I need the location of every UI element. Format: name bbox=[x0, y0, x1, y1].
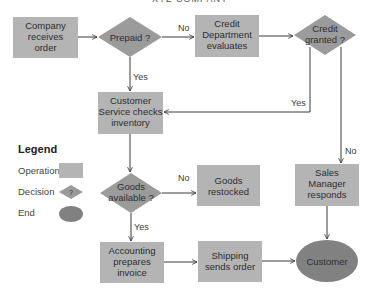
node-goods-available-decision: Goods available ? bbox=[100, 173, 162, 213]
svg-text:Company: Company bbox=[25, 20, 66, 31]
svg-text:Credit: Credit bbox=[312, 23, 338, 34]
node-shipping: Shipping sends order bbox=[198, 241, 262, 282]
flowchart-canvas: XYZ COMPANY No Yes Yes No No Yes Co bbox=[0, 0, 374, 299]
svg-text:Customer: Customer bbox=[306, 256, 347, 267]
legend-decision-symbol: ? bbox=[69, 189, 73, 196]
svg-text:invoice: invoice bbox=[117, 267, 147, 278]
svg-text:inventory: inventory bbox=[111, 117, 150, 128]
connectors bbox=[78, 36, 341, 262]
legend-end-swatch bbox=[59, 206, 83, 222]
edge-label-credit-no: No bbox=[345, 146, 357, 156]
node-credit-department: Credit Department evaluates bbox=[195, 15, 259, 57]
svg-text:sends order: sends order bbox=[205, 261, 255, 272]
svg-text:restocked: restocked bbox=[208, 186, 249, 197]
legend: Legend Operation Decision ? End bbox=[18, 143, 83, 222]
svg-text:order: order bbox=[34, 42, 56, 53]
edge-label-prepaid-no: No bbox=[178, 23, 190, 33]
legend-label-operation: Operation bbox=[18, 165, 60, 176]
node-company-receives-order: Company receives order bbox=[13, 17, 78, 58]
node-sales-manager: Sales Manager responds bbox=[295, 164, 359, 206]
legend-label-end: End bbox=[18, 207, 35, 218]
svg-text:Goods: Goods bbox=[215, 175, 243, 186]
svg-text:available ?: available ? bbox=[108, 192, 153, 203]
node-customer-end: Customer bbox=[296, 240, 358, 282]
node-customer-service: Customer Service checks inventory bbox=[98, 92, 163, 134]
svg-text:Manager: Manager bbox=[308, 178, 346, 189]
legend-label-decision: Decision bbox=[18, 186, 54, 197]
node-prepaid-decision: Prepaid ? bbox=[98, 17, 162, 57]
svg-text:Goods: Goods bbox=[117, 181, 145, 192]
svg-text:evaluates: evaluates bbox=[207, 40, 248, 51]
svg-text:granted ?: granted ? bbox=[305, 34, 345, 45]
svg-text:receives: receives bbox=[28, 31, 64, 42]
diagram-title: XYZ COMPANY bbox=[152, 0, 228, 4]
svg-text:responds: responds bbox=[307, 189, 346, 200]
svg-text:Accounting: Accounting bbox=[108, 245, 155, 256]
svg-text:prepares: prepares bbox=[113, 256, 151, 267]
edge-label-credit-yes: Yes bbox=[291, 98, 306, 108]
edge-label-prepaid-yes: Yes bbox=[133, 72, 148, 82]
svg-text:Sales: Sales bbox=[315, 167, 339, 178]
node-goods-restocked: Goods restocked bbox=[197, 165, 260, 206]
legend-title: Legend bbox=[18, 143, 57, 155]
edge-label-goods-yes: Yes bbox=[134, 222, 149, 232]
node-accounting: Accounting prepares invoice bbox=[100, 242, 164, 283]
edge-label-goods-no: No bbox=[178, 173, 190, 183]
legend-operation-swatch bbox=[59, 163, 83, 178]
svg-text:Department: Department bbox=[202, 29, 252, 40]
svg-text:Customer: Customer bbox=[110, 95, 151, 106]
svg-text:Credit: Credit bbox=[214, 18, 240, 29]
svg-text:Shipping: Shipping bbox=[212, 250, 249, 261]
svg-text:Service checks: Service checks bbox=[99, 106, 163, 117]
node-credit-granted-decision: Credit granted ? bbox=[294, 15, 356, 55]
svg-text:Prepaid ?: Prepaid ? bbox=[110, 32, 151, 43]
